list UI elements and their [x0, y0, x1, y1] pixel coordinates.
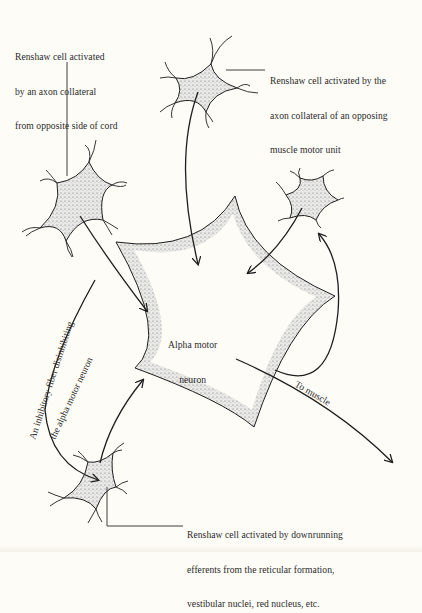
label-line: axon collateral of an opposing: [270, 110, 388, 122]
label-line: neuron: [168, 374, 217, 386]
label-line: vestibular nuclei, red nucleus, etc.: [187, 598, 343, 610]
label-line: Renshaw cell activated by the: [270, 75, 388, 87]
label-line: Renshaw cell activated by downrunning: [187, 529, 343, 541]
label-renshaw-opposing-muscle: Renshaw cell activated by the axon colla…: [270, 52, 388, 167]
renshaw-cell-right: [276, 168, 344, 228]
renshaw-cell-left: [22, 140, 127, 257]
label-alpha-motor-neuron: Alpha motor neuron: [168, 316, 217, 397]
label-line: efferents from the reticular formation,: [187, 564, 343, 576]
to-muscle-label: To muscle: [293, 378, 333, 407]
label-renshaw-downrunning-efferents: Renshaw cell activated by downrunning ef…: [187, 506, 343, 613]
label-line: by an axon collateral: [15, 86, 118, 98]
inhibitory-label-line1: An inhibitory fiber disinhibiting: [26, 320, 75, 441]
label-line: Alpha motor: [168, 339, 217, 351]
label-line: from opposite side of cord: [15, 120, 118, 132]
label-line: muscle motor unit: [270, 144, 388, 156]
arrow-bottom-to-alpha: [100, 380, 143, 463]
leader-bottom: [107, 487, 183, 526]
label-renshaw-opposite-side: Renshaw cell activated by an axon collat…: [15, 28, 118, 143]
label-line: Renshaw cell activated: [15, 51, 118, 63]
renshaw-cell-top: [160, 36, 258, 128]
page-edge: [0, 545, 422, 552]
